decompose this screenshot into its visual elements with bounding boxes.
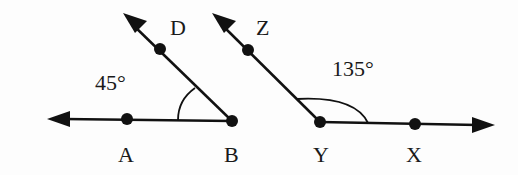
arrowhead-right-icon (472, 117, 495, 133)
angle-diagram: A B D 45° Y X Z 135° (0, 0, 518, 175)
label-b: B (224, 142, 239, 167)
point-z (242, 44, 254, 56)
point-b (226, 115, 238, 127)
angle-arc-45 (178, 88, 195, 120)
label-y: Y (313, 142, 329, 167)
label-z: Z (256, 15, 269, 40)
ray-yx (320, 122, 478, 125)
arrowhead-left-icon (47, 111, 70, 127)
point-a (121, 113, 133, 125)
label-angle-135: 135° (332, 56, 374, 81)
point-d (154, 43, 166, 55)
label-a: A (118, 142, 134, 167)
label-angle-45: 45° (95, 70, 126, 95)
right-angle-figure: Y X Z 135° (212, 13, 495, 167)
ray-yz (221, 24, 320, 122)
point-x (409, 118, 421, 130)
left-angle-figure: A B D 45° (47, 13, 239, 167)
arrowhead-z-icon (212, 13, 236, 33)
label-x: X (406, 142, 422, 167)
point-y (314, 116, 326, 128)
arrowhead-d-icon (123, 13, 147, 33)
label-d: D (170, 15, 186, 40)
ray-ba (64, 119, 232, 121)
